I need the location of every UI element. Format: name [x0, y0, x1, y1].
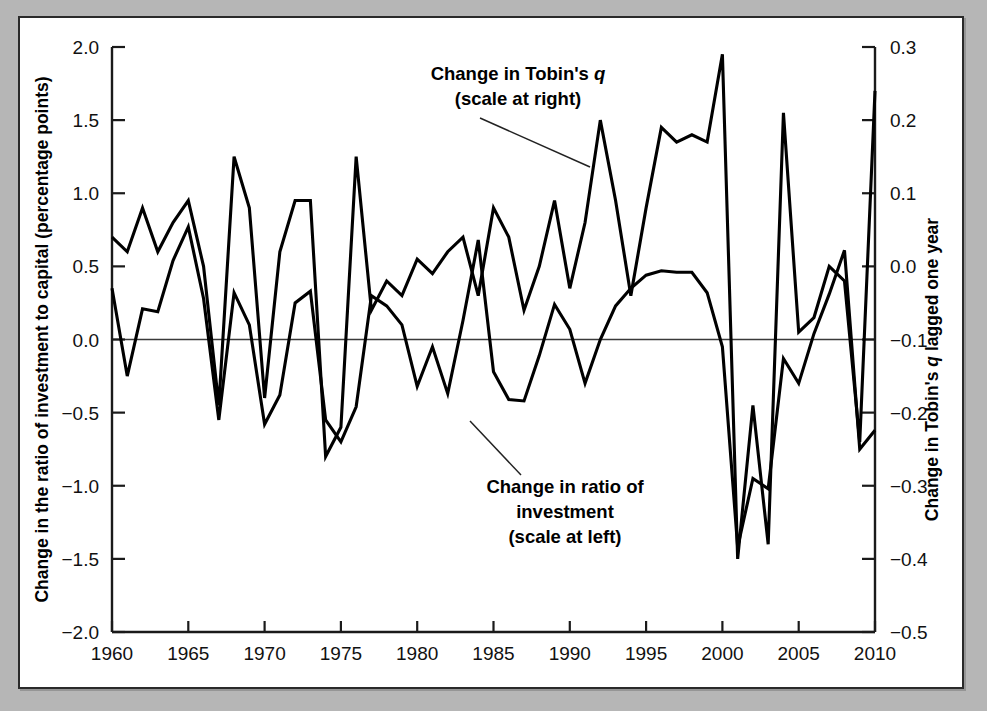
left-axis-tick-label: −1.5 — [61, 549, 99, 570]
left-axis-title: Change in the ratio of investment to cap… — [32, 76, 52, 602]
right-axis-tick-label: 0.2 — [890, 110, 916, 131]
line-chart: 2.01.51.00.50.0−0.5−1.0−1.5−2.00.30.20.1… — [20, 18, 962, 687]
left-axis-tick-label: −0.5 — [61, 403, 99, 424]
x-axis-tick-label: 1995 — [625, 643, 667, 664]
annotation-tobins-q-line1: Change in Tobin's q — [431, 63, 606, 84]
annotation-tobins-q-line2: (scale at right) — [455, 88, 581, 109]
x-axis-tick-label: 1965 — [167, 643, 209, 664]
x-axis-tick-label: 1985 — [472, 643, 514, 664]
right-axis-title-part: lagged one year — [922, 218, 942, 356]
left-axis-tick-label: 0.5 — [73, 256, 99, 277]
annotation-leader-line-tobins-q — [480, 118, 590, 167]
x-axis-tick-label: 1990 — [549, 643, 591, 664]
right-axis-title-italic-q: q — [922, 356, 942, 367]
annotation-text: Change in Tobin's — [431, 63, 594, 84]
x-axis-tick-label: 1980 — [396, 643, 438, 664]
right-axis-tick-label: −0.5 — [890, 622, 928, 643]
left-axis-tick-label: 2.0 — [73, 37, 99, 58]
right-axis-title: Change in Tobin's q lagged one year — [922, 218, 942, 522]
x-axis-tick-label: 1960 — [91, 643, 133, 664]
x-axis-tick-label: 1970 — [243, 643, 285, 664]
right-axis-tick-label: 0.1 — [890, 183, 916, 204]
x-axis-tick-label: 2010 — [854, 643, 896, 664]
right-axis-title-part: Change in Tobin's — [922, 367, 942, 522]
annotation-investment-line3: (scale at left) — [508, 526, 621, 547]
annotation-leader-line-investment — [470, 421, 521, 475]
left-axis-tick-label: 0.0 — [73, 330, 99, 351]
annotation-italic-q: q — [594, 63, 605, 84]
x-axis-tick-label: 2000 — [701, 643, 743, 664]
right-axis-tick-label: 0.3 — [890, 37, 916, 58]
x-axis-tick-label: 1975 — [320, 643, 362, 664]
left-axis-tick-label: −1.0 — [61, 476, 99, 497]
annotation-investment-line2: investment — [516, 501, 614, 522]
x-axis-tick-label: 2005 — [778, 643, 820, 664]
chart-figure-card: 2.01.51.00.50.0−0.5−1.0−1.5−2.00.30.20.1… — [18, 16, 964, 689]
annotation-investment-line1: Change in ratio of — [486, 476, 644, 497]
left-axis-tick-label: 1.0 — [73, 183, 99, 204]
left-axis-tick-label: −2.0 — [61, 622, 99, 643]
right-axis-tick-label: 0.0 — [890, 256, 916, 277]
left-axis-tick-label: 1.5 — [73, 110, 99, 131]
right-axis-tick-label: −0.4 — [890, 549, 928, 570]
